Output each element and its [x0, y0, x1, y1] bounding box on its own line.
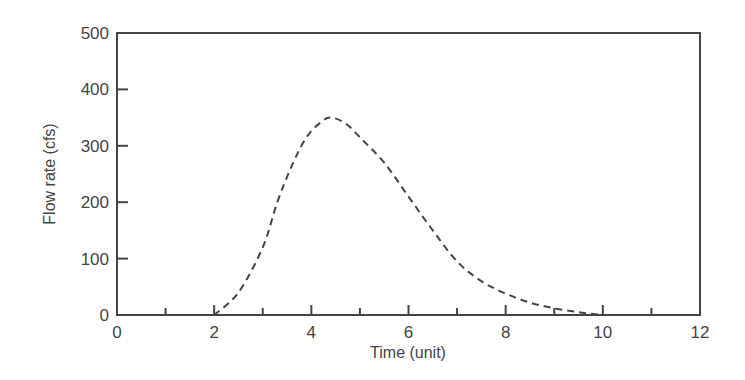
y-tick-label: 300 — [81, 137, 109, 156]
y-tick-label: 100 — [81, 250, 109, 269]
x-tick-label: 6 — [404, 323, 413, 342]
y-tick-label: 500 — [81, 24, 109, 43]
tick-labels: 0100200300400500024681012 — [81, 24, 710, 342]
y-tick-label: 0 — [100, 306, 109, 325]
flow-rate-chart: 0100200300400500024681012 Time (unit) Fl… — [0, 0, 745, 380]
y-axis-title: Flow rate (cfs) — [41, 123, 58, 224]
axis-ticks — [117, 89, 651, 315]
hydrograph-line — [214, 118, 603, 315]
x-tick-label: 4 — [307, 323, 316, 342]
x-tick-label: 10 — [593, 323, 612, 342]
y-tick-label: 400 — [81, 80, 109, 99]
x-tick-label: 12 — [691, 323, 710, 342]
y-tick-label: 200 — [81, 193, 109, 212]
x-axis-title: Time (unit) — [370, 344, 446, 361]
plot-frame — [117, 33, 700, 315]
x-tick-label: 2 — [209, 323, 218, 342]
x-tick-label: 8 — [501, 323, 510, 342]
x-tick-label: 0 — [112, 323, 121, 342]
